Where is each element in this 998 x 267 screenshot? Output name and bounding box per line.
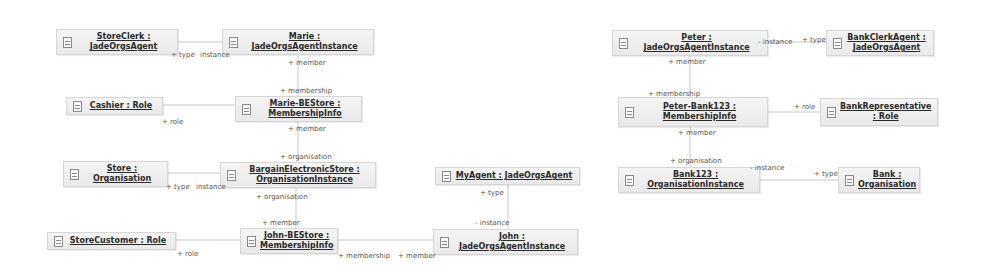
node-john[interactable]: John :JadeOrgsAgentInstance — [433, 229, 578, 255]
node-storeclerk[interactable]: StoreClerk :JadeOrgsAgent — [56, 29, 178, 55]
node-label: Marie :JadeOrgsAgentInstance — [242, 32, 373, 52]
edge-label: + type — [814, 170, 838, 178]
edge-label: + member — [668, 58, 706, 66]
node-bankrep[interactable]: BankRepresentative: Role — [820, 98, 938, 126]
object-diagram: StoreClerk :JadeOrgsAgent Marie :JadeOrg… — [0, 0, 998, 267]
node-label: Bank :Organisation — [858, 170, 922, 190]
edge-label: + type — [480, 189, 504, 197]
node-peter[interactable]: Peter :JadeOrgsAgentInstance — [612, 30, 768, 56]
node-label: StoreCustomer : Role — [67, 236, 175, 246]
instance-specification-icon — [227, 170, 236, 181]
instance-specification-icon — [833, 38, 842, 49]
edge-label: - instance — [758, 38, 792, 46]
node-label: Store :Organisation — [83, 164, 167, 184]
edge-label: + member — [262, 219, 300, 227]
edge-label: - instance — [750, 164, 784, 172]
edge-label: - instance — [475, 219, 509, 227]
edge-label: + member — [288, 125, 326, 133]
instance-specification-icon — [229, 37, 238, 48]
edge-label: + member — [288, 59, 326, 67]
instance-specification-icon — [625, 107, 634, 118]
node-label: Marie-BEStore :MembershipInfo — [255, 99, 361, 119]
node-label: Cashier : Role — [86, 101, 162, 111]
edge-label: + member — [678, 129, 716, 137]
node-myagent[interactable]: MyAgent : JadeOrgsAgent — [435, 167, 580, 185]
node-label: Bank123 :OrganisationInstance — [638, 170, 759, 190]
node-label: BankClerkAgent :JadeOrgsAgent — [846, 33, 933, 53]
edge-label: + member — [398, 252, 436, 260]
node-label: John :JadeOrgsAgentInstance — [453, 232, 577, 252]
edge-label: + organisation — [670, 157, 722, 165]
node-label: Peter :JadeOrgsAgentInstance — [632, 33, 767, 53]
node-storecustomer[interactable]: StoreCustomer : Role — [47, 232, 176, 250]
edge-label: + organisation — [280, 153, 332, 161]
instance-specification-icon — [242, 104, 251, 115]
edge-label: + membership — [338, 252, 390, 260]
node-peter-bank123[interactable]: Peter-Bank123 :MembershipInfo — [618, 97, 768, 127]
node-bank123[interactable]: Bank123 :OrganisationInstance — [618, 167, 760, 193]
edge-label: instance — [200, 51, 230, 59]
instance-specification-icon — [54, 236, 63, 247]
edge-label: + type — [171, 51, 195, 59]
node-john-bestore[interactable]: John-BEStore :MembershipInfo — [240, 228, 338, 254]
edge-label: + membership — [280, 87, 332, 95]
instance-specification-icon — [70, 169, 79, 180]
node-label: John-BEStore :MembershipInfo — [260, 231, 339, 251]
node-bankclerk[interactable]: BankClerkAgent :JadeOrgsAgent — [826, 30, 934, 56]
edge-label: + role — [794, 103, 815, 111]
node-label: StoreClerk :JadeOrgsAgent — [76, 32, 177, 52]
node-cashier[interactable]: Cashier : Role — [66, 97, 163, 115]
instance-specification-icon — [440, 237, 449, 248]
instance-specification-icon — [73, 101, 82, 112]
instance-specification-icon — [625, 175, 634, 186]
node-store[interactable]: Store :Organisation — [63, 161, 168, 187]
edge-label: + role — [177, 250, 198, 258]
instance-specification-icon — [63, 37, 72, 48]
node-label: MyAgent : JadeOrgsAgent — [455, 171, 579, 181]
instance-specification-icon — [827, 107, 836, 118]
node-label: Peter-Bank123 :MembershipInfo — [638, 102, 767, 122]
instance-specification-icon — [619, 38, 628, 49]
edge-label: + type — [802, 36, 826, 44]
edge-label: + organisation — [256, 193, 308, 201]
node-marie-bestore[interactable]: Marie-BEStore :MembershipInfo — [235, 96, 362, 122]
instance-specification-icon — [442, 171, 451, 182]
edge-label: + membership — [648, 90, 700, 98]
edge-label: + role — [162, 118, 183, 126]
node-bargain[interactable]: BargainElectronicStore :OrganisationInst… — [220, 162, 376, 188]
instance-specification-icon — [247, 236, 256, 247]
instance-specification-icon — [845, 175, 854, 186]
node-label: BankRepresentative: Role — [840, 102, 938, 122]
edge-label: instance — [196, 183, 226, 191]
node-marie[interactable]: Marie :JadeOrgsAgentInstance — [222, 29, 374, 55]
node-bank[interactable]: Bank :Organisation — [838, 167, 920, 193]
node-label: BargainElectronicStore :OrganisationInst… — [240, 165, 375, 185]
edge-label: + type — [166, 183, 190, 191]
